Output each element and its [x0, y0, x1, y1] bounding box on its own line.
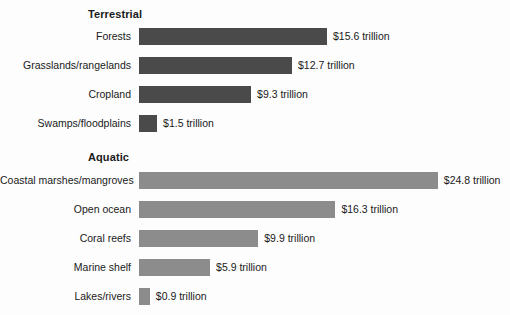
bar-category-label: Coastal marshes/mangroves	[0, 172, 131, 189]
bar-terrestrial	[139, 57, 292, 74]
bar-category-label: Coral reefs	[0, 230, 131, 247]
bar-value-label: $1.5 trillion	[163, 115, 214, 132]
bar-value-label: $12.7 trillion	[298, 57, 355, 74]
bar-category-label: Marine shelf	[0, 259, 131, 276]
bar-category-label: Grasslands/rangelands	[0, 57, 131, 74]
chart-row: Cropland$9.3 trillion	[0, 86, 510, 103]
bar-value-label: $5.9 trillion	[216, 259, 267, 276]
bar-value-label: $16.3 trillion	[341, 201, 398, 218]
bar-category-label: Forests	[0, 28, 131, 45]
bar-terrestrial	[139, 28, 327, 45]
chart-row: Lakes/rivers$0.9 trillion	[0, 288, 510, 305]
bar-chart: Terrestrial Aquatic Forests$15.6 trillio…	[0, 0, 510, 315]
bar-terrestrial	[139, 115, 157, 132]
bar-category-label: Swamps/floodplains	[0, 115, 131, 132]
bar-aquatic	[139, 288, 150, 305]
bar-aquatic	[139, 172, 438, 189]
bar-value-label: $0.9 trillion	[156, 288, 207, 305]
bar-value-label: $24.8 trillion	[444, 172, 501, 189]
bar-category-label: Open ocean	[0, 201, 131, 218]
chart-row: Forests$15.6 trillion	[0, 28, 510, 45]
section-header-terrestrial: Terrestrial	[88, 8, 142, 20]
bar-value-label: $9.9 trillion	[264, 230, 315, 247]
chart-row: Grasslands/rangelands$12.7 trillion	[0, 57, 510, 74]
bar-terrestrial	[139, 86, 251, 103]
chart-row: Open ocean$16.3 trillion	[0, 201, 510, 218]
chart-row: Coral reefs$9.9 trillion	[0, 230, 510, 247]
bar-category-label: Lakes/rivers	[0, 288, 131, 305]
bar-aquatic	[139, 259, 210, 276]
bar-aquatic	[139, 201, 335, 218]
chart-row: Swamps/floodplains$1.5 trillion	[0, 115, 510, 132]
section-header-aquatic: Aquatic	[88, 151, 129, 163]
chart-row: Coastal marshes/mangroves$24.8 trillion	[0, 172, 510, 189]
bar-aquatic	[139, 230, 258, 247]
chart-row: Marine shelf$5.9 trillion	[0, 259, 510, 276]
bar-value-label: $15.6 trillion	[333, 28, 390, 45]
bar-value-label: $9.3 trillion	[257, 86, 308, 103]
bar-category-label: Cropland	[0, 86, 131, 103]
